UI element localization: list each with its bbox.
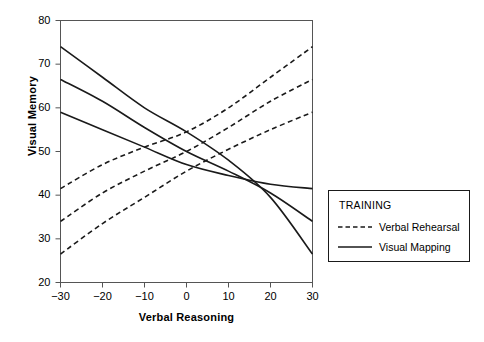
y-tick-label: 20 (25, 276, 51, 288)
x-tick-label: 20 (251, 290, 291, 302)
series-line (61, 79, 313, 221)
legend-label: Verbal Rehearsal (379, 221, 460, 233)
y-tick-label: 80 (25, 14, 51, 26)
x-tick-label: 0 (167, 290, 207, 302)
y-tick-label: 60 (25, 101, 51, 113)
series-line (61, 47, 313, 254)
x-tick-label: −30 (41, 290, 81, 302)
legend-item-verbal-rehearsal: Verbal Rehearsal (337, 219, 460, 235)
y-tick-label: 30 (25, 232, 51, 244)
x-tick-label: −10 (125, 290, 165, 302)
x-tick-label: 30 (293, 290, 333, 302)
series-line (61, 112, 313, 254)
x-tick-label: 10 (209, 290, 249, 302)
legend-item-visual-mapping: Visual Mapping (337, 239, 451, 255)
series-line (61, 112, 313, 188)
x-tick-label: −20 (83, 290, 123, 302)
y-tick-label: 40 (25, 188, 51, 200)
data-lines (61, 47, 313, 254)
x-axis-title: Verbal Reasoning (60, 311, 313, 323)
y-tick-label: 50 (25, 145, 51, 157)
legend: TRAINING Verbal Rehearsal Visual Mapping (328, 190, 470, 262)
chart-figure: Visual Memory Verbal Reasoning −30−20−10… (0, 0, 484, 342)
legend-swatch-dashed-icon (337, 222, 373, 232)
legend-title: TRAINING (339, 199, 392, 211)
axis-ticks (56, 21, 313, 288)
series-line (61, 79, 313, 221)
series-line (61, 47, 313, 189)
legend-label: Visual Mapping (379, 241, 451, 253)
legend-swatch-solid-icon (337, 242, 373, 252)
y-tick-label: 70 (25, 57, 51, 69)
